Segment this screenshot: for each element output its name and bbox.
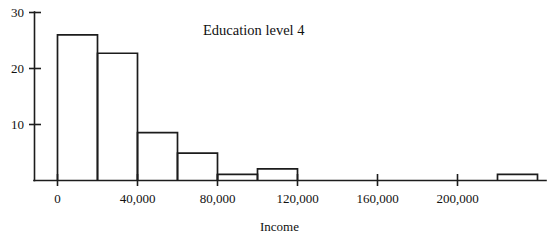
y-axis-tick-label-10: 10 (0, 118, 24, 131)
x-axis-tick-label-120000: 120,000 (262, 192, 333, 205)
x-axis-tick-label-200000: 200,000 (422, 192, 493, 205)
y-axis-tick-label-20: 20 (0, 62, 24, 75)
histogram-bar-0 (58, 35, 98, 180)
histogram-bar-5 (258, 169, 298, 180)
histogram-bar-1 (98, 53, 138, 180)
x-axis-tick-label-80000: 80,000 (182, 192, 253, 205)
histogram-bar-11 (498, 174, 538, 180)
chart-title: Education level 4 (203, 23, 304, 38)
histogram-bar-2 (138, 133, 178, 180)
y-axis-tick-label-30: 30 (0, 6, 24, 19)
x-axis-tick-label-160000: 160,000 (342, 192, 413, 205)
histogram-figure: Education level 4 30 20 10 0 40,000 80,0… (0, 0, 558, 243)
x-axis-tick-label-40000: 40,000 (102, 192, 173, 205)
x-axis-tick-label-0: 0 (22, 192, 93, 205)
histogram-bar-4 (218, 174, 258, 180)
x-axis-title: Income (260, 220, 299, 233)
histogram-bar-3 (178, 153, 218, 180)
